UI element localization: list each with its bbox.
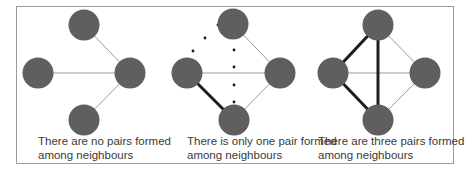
dotted-edge-top-bottom [233, 49, 236, 104]
node-left [172, 58, 203, 89]
caption-line-2: among neighbours [38, 148, 171, 162]
node-top [218, 9, 249, 40]
node-bottom [363, 105, 394, 136]
caption-line-1: There are three pairs formed [318, 134, 464, 148]
caption-line-2: among neighbours [187, 148, 337, 162]
dotted-edge-top-left [192, 24, 220, 53]
panel-three-pairs [318, 10, 441, 136]
panel-one-pair [172, 9, 296, 136]
node-top [363, 10, 394, 41]
node-bottom [69, 105, 100, 136]
node-center [410, 58, 441, 89]
panel-no-pairs [23, 10, 146, 136]
node-bottom [219, 105, 250, 136]
node-top [69, 10, 100, 41]
caption-line-1: There is only one pair formed [187, 134, 337, 148]
node-center [265, 58, 296, 89]
node-left [318, 58, 349, 89]
caption-line-1: There are no pairs formed [38, 134, 171, 148]
node-center [115, 58, 146, 89]
caption-panel-3: There are three pairs formed among neigh… [318, 134, 464, 162]
caption-panel-2: There is only one pair formed among neig… [187, 134, 337, 162]
node-left [23, 58, 54, 89]
caption-line-2: among neighbours [318, 148, 464, 162]
caption-panel-1: There are no pairs formed among neighbou… [38, 134, 171, 162]
